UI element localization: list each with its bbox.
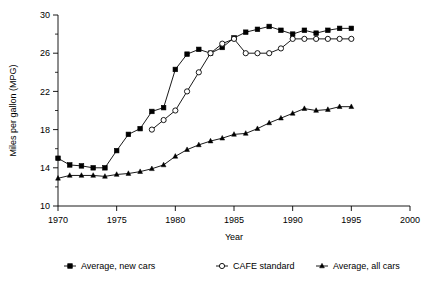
y-tick-label: 22: [40, 87, 50, 97]
series-1-marker-circle: [302, 36, 307, 41]
y-tick-label: 30: [40, 10, 50, 20]
series-0-marker-square: [243, 30, 248, 35]
legend-1-marker-circle: [219, 263, 224, 268]
series-1-marker-circle: [278, 46, 283, 51]
fuel-economy-chart: 1014182226301970197519801985199019952000…: [0, 0, 421, 291]
series-0-marker-square: [79, 164, 84, 169]
y-tick-label: 18: [40, 125, 50, 135]
series-1-marker-circle: [231, 36, 236, 41]
series-0-marker-square: [138, 126, 143, 131]
series-1-marker-circle: [220, 41, 225, 46]
x-tick-label: 1995: [341, 215, 361, 225]
y-tick-label: 10: [40, 201, 50, 211]
chart-canvas: 1014182226301970197519801985199019952000…: [0, 0, 421, 291]
series-0-marker-square: [161, 105, 166, 110]
y-axis-title: Miles per gallon (MPG): [8, 64, 18, 156]
series-line-1: [152, 39, 351, 130]
x-tick-label: 1975: [107, 215, 127, 225]
series-1-marker-circle: [337, 36, 342, 41]
legend-label-1: CAFE standard: [233, 261, 295, 271]
x-axis-title: Year: [225, 232, 243, 242]
series-0-marker-square: [279, 28, 284, 33]
series-1-marker-circle: [243, 51, 248, 56]
legend-0-marker-square: [68, 264, 73, 269]
series-0-marker-square: [91, 166, 96, 171]
x-tick-label: 1990: [283, 215, 303, 225]
series-0-marker-square: [150, 109, 155, 114]
y-tick-label: 14: [40, 163, 50, 173]
series-1-marker-circle: [325, 36, 330, 41]
series-0-marker-square: [337, 26, 342, 31]
series-0-marker-square: [103, 166, 108, 171]
series-0-marker-square: [67, 163, 72, 168]
series-line-0: [58, 26, 351, 167]
y-tick-label: 26: [40, 48, 50, 58]
series-0-marker-square: [290, 32, 295, 37]
series-1-marker-circle: [161, 117, 166, 122]
series-0-marker-square: [126, 132, 131, 137]
series-0-marker-square: [114, 148, 119, 153]
legend-label-0: Average, new cars: [81, 261, 156, 271]
series-2-marker-triangle: [302, 106, 307, 111]
series-0-marker-square: [255, 27, 260, 32]
series-0-marker-square: [185, 52, 190, 57]
series-0-marker-square: [326, 28, 331, 33]
series-0-marker-square: [267, 24, 272, 29]
series-0-marker-square: [56, 156, 61, 161]
series-1-marker-circle: [208, 51, 213, 56]
series-0-marker-square: [302, 28, 307, 33]
series-1-marker-circle: [184, 89, 189, 94]
series-1-marker-circle: [196, 70, 201, 75]
series-1-marker-circle: [349, 36, 354, 41]
x-tick-label: 1985: [224, 215, 244, 225]
legend-label-2: Average, all cars: [333, 261, 400, 271]
series-1-marker-circle: [290, 36, 295, 41]
series-0-marker-square: [197, 47, 202, 52]
series-0-marker-square: [173, 67, 178, 72]
series-1-marker-circle: [255, 51, 260, 56]
series-2-marker-triangle: [161, 162, 166, 167]
series-1-marker-circle: [173, 108, 178, 113]
series-1-marker-circle: [149, 127, 154, 132]
x-tick-label: 1980: [165, 215, 185, 225]
series-1-marker-circle: [267, 51, 272, 56]
series-0-marker-square: [349, 26, 354, 31]
x-tick-label: 2000: [400, 215, 420, 225]
series-0-marker-square: [314, 31, 319, 36]
series-2-marker-triangle: [173, 154, 178, 159]
series-1-marker-circle: [314, 36, 319, 41]
x-tick-label: 1970: [48, 215, 68, 225]
